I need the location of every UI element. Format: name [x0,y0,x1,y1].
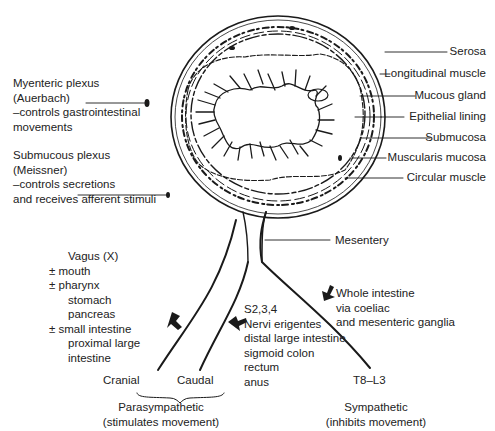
label-cranial: Cranial [103,373,139,388]
label-circular-muscle: Circular muscle [407,170,486,185]
circular-muscle-ring [191,34,365,194]
sacral-item: sigmoid colon [244,346,346,361]
lumen-border [214,84,320,149]
sacral-item: Nervi erigentes [244,317,346,332]
submucous-line-4: and receives afferent stimuli [13,192,156,207]
vagus-item: intestine [49,351,140,366]
sympathetic-target-line: via coeliac [336,301,455,316]
sacral-item: rectum [244,360,346,375]
sympathetic-title: Sympathetic [320,400,432,415]
vagus-item: ± pharynx [49,278,140,293]
label-mesentery: Mesentery [335,233,389,248]
submucous-line-2: (Meissner) [13,163,156,178]
sacral-item: distal large intestine [244,331,346,346]
serosa-ring [171,16,385,218]
label-caudal: Caudal [177,373,213,388]
parasympathetic-effect: (stimulates movement) [100,415,222,430]
vagus-item: proximal large [49,336,140,351]
label-submucosa: Submucosa [425,130,486,145]
label-mucous-gland: Mucous gland [414,88,486,103]
cranial-nerve-line [158,220,236,370]
vagus-title: Vagus (X) [49,249,140,264]
vagus-item: stomach [49,293,140,308]
vagus-item: ± small intestine [49,322,140,337]
parasympathetic-title: Parasympathetic [100,400,222,415]
submucous-line-1: Submucous plexus [13,148,156,163]
vagus-label: Vagus (X) ± mouth ± pharynx stomach panc… [49,249,140,365]
myenteric-line-4: movements [13,120,140,135]
vagus-item: ± mouth [49,264,140,279]
sympathetic-target-line: and mesenteric ganglia [336,315,455,330]
sympathetic-label: Sympathetic (inhibits movement) [320,400,432,429]
vagus-item: pancreas [49,307,140,322]
label-epithelial-lining: Epithelial lining [409,109,486,124]
label-longitudinal-muscle: Longitudinal muscle [384,66,486,81]
caudal-nerve-line [200,262,248,370]
label-t8-l3: T8–L3 [353,373,386,388]
label-serosa: Serosa [450,44,486,59]
sympathetic-arrow-icon [322,285,335,301]
myenteric-line-2: (Auerbach) [13,91,140,106]
submucous-line-3: –controls secretions [13,177,156,192]
sympathetic-targets-label: Whole intestine via coeliac and mesenter… [336,286,455,330]
myenteric-line-3: –controls gastrointestinal [13,105,140,120]
submucous-plexus-label: Submucous plexus (Meissner) –controls se… [13,148,156,206]
mesentery-left [243,212,248,262]
label-muscularis-mucosa: Muscularis mucosa [388,150,486,165]
sympathetic-effect: (inhibits movement) [320,415,432,430]
submucosa-border [186,54,364,180]
sympathetic-target-line: Whole intestine [336,286,455,301]
parasympathetic-label: Parasympathetic (stimulates movement) [100,400,222,429]
myenteric-line-1: Myenteric plexus [13,76,140,91]
sacral-item: anus [244,375,346,390]
myenteric-plexus-label: Myenteric plexus (Auerbach) –controls ga… [13,76,140,134]
vagus-arrow-icon [167,312,182,330]
sacral-label: S2,3,4 Nervi erigentes distal large inte… [244,302,346,389]
sacral-title: S2,3,4 [244,302,346,317]
